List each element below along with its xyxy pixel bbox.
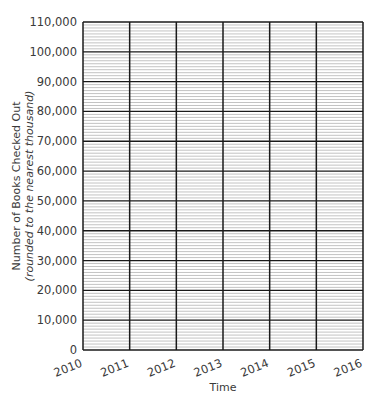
x-tick-label: 2016 [332, 356, 364, 380]
y-tick-label: 50,000 [37, 194, 77, 208]
x-tick-label: 2012 [145, 356, 177, 380]
y-tick-label: 40,000 [37, 224, 77, 238]
x-axis-label: Time [209, 381, 237, 394]
y-tick-label: 30,000 [37, 254, 77, 268]
y-tick-label: 90,000 [37, 75, 77, 89]
y-tick-label: 20,000 [37, 283, 77, 297]
x-axis-ticks: 2010201120122013201420152016 [52, 356, 364, 380]
chart: 010,00020,00030,00040,00050,00060,00070,… [0, 0, 374, 400]
y-tick-label: 70,000 [37, 134, 77, 148]
y-tick-label: 110,000 [29, 15, 77, 29]
y-axis-label: Number of Books Checked Out [10, 101, 23, 271]
y-axis-ticks: 010,00020,00030,00040,00050,00060,00070,… [29, 15, 77, 357]
y-tick-label: 0 [70, 343, 77, 357]
x-tick-label: 2010 [52, 356, 84, 380]
y-axis-sublabel: (rounded to the nearest thousand) [23, 91, 36, 282]
y-tick-label: 80,000 [37, 104, 77, 118]
x-tick-label: 2014 [238, 356, 270, 380]
x-tick-label: 2013 [192, 356, 224, 380]
y-tick-label: 10,000 [37, 313, 77, 327]
y-tick-label: 100,000 [29, 45, 77, 59]
x-tick-label: 2011 [98, 356, 130, 380]
x-tick-label: 2015 [285, 356, 317, 380]
y-tick-label: 60,000 [37, 164, 77, 178]
